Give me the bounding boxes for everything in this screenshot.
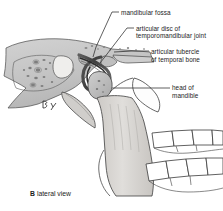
bony-island (53, 56, 73, 78)
label-head-of-mandible: head ofmandible (172, 84, 198, 99)
label-articular-disc: articular disc oftemporomandibular joint (136, 25, 206, 40)
caption-panel-letter: B (30, 190, 35, 197)
maxillary-molars (152, 130, 223, 148)
figure-caption: Blateral view (30, 190, 71, 197)
label-articular-tubercle: articular tubercleof temporal bone (151, 48, 200, 63)
ramus-of-mandible (97, 96, 154, 196)
figure-panel: mandibular fossa articular disc oftempor… (0, 0, 223, 211)
label-articular-disc-line2: temporomandibular joint (136, 32, 206, 39)
label-mandibular-fossa: mandibular fossa (121, 9, 171, 17)
label-head-of-mandible-line1: head of (172, 84, 194, 91)
label-articular-tubercle-line2: of temporal bone (151, 56, 200, 63)
styloid-process (62, 92, 95, 128)
label-articular-tubercle-line1: articular tubercle (151, 48, 199, 55)
label-head-of-mandible-line2: mandible (172, 92, 198, 99)
head-of-mandible-condyle (88, 72, 112, 99)
caption-text: lateral view (37, 190, 71, 197)
mandibular-notch (110, 78, 133, 92)
mandible-group (62, 72, 160, 196)
mandibular-molars (146, 158, 223, 181)
label-articular-disc-line1: articular disc of (136, 25, 180, 32)
bone-marking-scribble (43, 101, 56, 110)
